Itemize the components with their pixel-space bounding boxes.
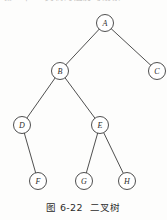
tree-node-c[interactable]: C — [149, 63, 166, 80]
tree-edge-e-g — [86, 133, 97, 173]
tree-node-a[interactable]: A — [97, 15, 114, 32]
figure-title: 二叉树 — [90, 202, 121, 213]
tree-edge-e-h — [104, 133, 124, 174]
tree-edge-a-c — [111, 29, 151, 65]
tree-node-label-f: F — [35, 177, 41, 186]
tree-node-h[interactable]: H — [119, 173, 136, 190]
tree-node-label-d: D — [18, 121, 25, 130]
tree-edges-group — [24, 29, 150, 174]
figure-page: 第一节 二叉树的遍历与线索 ABCDEFGH 图 6-22二叉树 — [0, 0, 167, 220]
tree-node-d[interactable]: D — [14, 117, 31, 134]
tree-edge-b-d — [27, 78, 55, 118]
tree-node-label-e: E — [97, 121, 103, 130]
figure-number: 图 6-22 — [46, 202, 82, 213]
tree-node-label-g: G — [81, 177, 87, 186]
tree-edge-d-f — [24, 133, 35, 173]
tree-node-label-c: C — [154, 67, 160, 76]
tree-node-f[interactable]: F — [30, 173, 47, 190]
tree-edge-a-b — [66, 29, 99, 65]
tree-node-label-b: B — [58, 67, 63, 76]
figure-caption: 图 6-22二叉树 — [0, 200, 167, 214]
tree-node-b[interactable]: B — [52, 63, 69, 80]
tree-node-label-a: A — [102, 19, 108, 28]
tree-edge-b-e — [65, 78, 95, 118]
tree-node-g[interactable]: G — [76, 173, 93, 190]
tree-node-e[interactable]: E — [92, 117, 109, 134]
binary-tree-diagram: ABCDEFGH — [0, 0, 167, 200]
